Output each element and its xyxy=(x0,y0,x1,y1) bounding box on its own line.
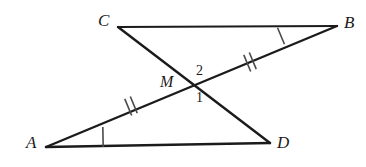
geometry-canvas xyxy=(0,0,366,167)
vertex-label-B: B xyxy=(344,14,354,31)
segment-AD xyxy=(46,143,270,147)
vertex-label-D: D xyxy=(277,134,289,151)
angle-label-1: 1 xyxy=(196,91,203,105)
tick-MB-single xyxy=(278,28,285,45)
point-label-M: M xyxy=(160,74,173,90)
angle-label-2: 2 xyxy=(196,64,203,78)
segment-CB xyxy=(118,26,337,27)
segment-AB xyxy=(46,26,337,147)
segments-group xyxy=(46,26,337,147)
geometry-figure: C B A D M 2 1 xyxy=(0,0,366,167)
segment-CD xyxy=(118,27,270,143)
vertex-label-A: A xyxy=(26,134,36,151)
tick-marks-group xyxy=(103,28,285,147)
vertex-label-C: C xyxy=(98,12,109,29)
